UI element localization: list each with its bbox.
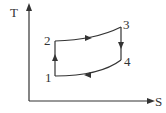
t-axis-arrow-icon [26, 3, 32, 11]
point-3-label: 3 [123, 17, 130, 32]
point-1-label: 1 [45, 70, 52, 85]
arrow-right-icon [85, 35, 92, 41]
cycle-path [55, 27, 121, 76]
ts-diagram: T S 2 3 4 1 [0, 0, 166, 113]
s-axis-label: S [155, 94, 162, 109]
s-axis-arrow-icon [147, 98, 155, 104]
point-2-label: 2 [44, 33, 51, 48]
arrow-up-icon [52, 54, 58, 61]
point-4-label: 4 [124, 54, 131, 69]
axes [29, 8, 150, 101]
diagram-canvas: T S 2 3 4 1 [0, 0, 166, 113]
t-axis-label: T [10, 5, 18, 20]
arrow-down-icon [118, 42, 124, 49]
